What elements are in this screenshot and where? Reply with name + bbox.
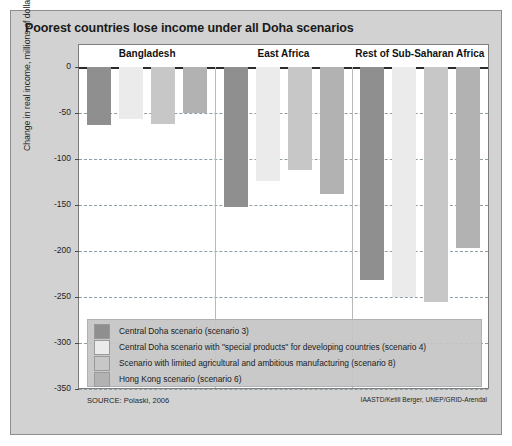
bar — [87, 67, 111, 125]
y-tick-label: -100 — [37, 153, 71, 163]
y-tick-label: -50 — [37, 107, 71, 117]
bar — [424, 67, 448, 302]
bar — [392, 67, 416, 297]
group-label-rest-of-sub-saharan-africa: Rest of Sub-Saharan Africa — [352, 48, 488, 59]
bar — [256, 67, 280, 181]
bar — [151, 67, 175, 124]
bar — [456, 67, 480, 248]
y-tick-label: -150 — [37, 199, 71, 209]
source-note: SOURCE: Polaski, 2006 — [87, 396, 169, 405]
bar — [183, 67, 207, 113]
y-tick-label: -200 — [37, 245, 71, 255]
y-tick-label: -350 — [37, 383, 71, 393]
y-tick-mark — [75, 251, 79, 252]
y-tick-label: 0 — [37, 61, 71, 71]
legend-swatch — [94, 372, 110, 387]
legend-swatch — [94, 324, 110, 339]
figure-title: Poorest countries lose income under all … — [25, 21, 354, 35]
legend-swatch — [94, 356, 110, 371]
bar — [320, 67, 344, 194]
group-label-bangladesh: Bangladesh — [79, 48, 215, 59]
chart-legend: Central Doha scenario (scenario 3)Centra… — [87, 319, 482, 387]
credit-note: IAASTD/Ketill Berger, UNEP/GRID-Arendal — [361, 396, 487, 403]
legend-swatch — [94, 340, 110, 355]
y-tick-label: -250 — [37, 291, 71, 301]
y-axis-title: Change in real income, millions of dolla… — [22, 0, 32, 151]
figure-panel: Poorest countries lose income under all … — [10, 10, 502, 435]
bar — [360, 67, 384, 280]
y-tick-label: -300 — [37, 337, 71, 347]
bar — [288, 67, 312, 170]
bar — [224, 67, 248, 207]
y-tick-mark — [75, 159, 79, 160]
legend-label: Central Doha scenario with "special prod… — [119, 342, 426, 352]
y-tick-mark — [75, 389, 79, 390]
bar — [119, 67, 143, 119]
legend-label: Hong Kong scenario (scenario 6) — [119, 374, 241, 384]
y-tick-mark — [75, 297, 79, 298]
legend-label: Scenario with limited agricultural and a… — [119, 358, 396, 368]
grid-line — [79, 389, 488, 390]
group-label-east-africa: East Africa — [215, 48, 351, 59]
y-tick-mark — [75, 343, 79, 344]
y-tick-mark — [75, 205, 79, 206]
y-tick-mark — [75, 113, 79, 114]
y-tick-mark — [75, 67, 79, 68]
legend-label: Central Doha scenario (scenario 3) — [119, 326, 249, 336]
